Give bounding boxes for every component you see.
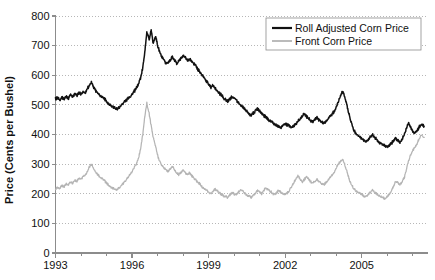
- x-tick-label-1999: 1999: [196, 259, 220, 271]
- y-axis-tick-labels: 8007006005004003002001000: [31, 10, 49, 259]
- y-tick-label-100: 100: [31, 217, 49, 229]
- y-tick-label-300: 300: [31, 158, 49, 170]
- x-tick-label-1993: 1993: [43, 259, 67, 271]
- legend-label-roll-adjusted: Roll Adjusted Corn Price: [295, 22, 409, 34]
- y-tick-label-200: 200: [31, 188, 49, 200]
- y-tick-label-700: 700: [31, 39, 49, 51]
- x-tick-label-1996: 1996: [120, 259, 144, 271]
- x-tick-label-2002: 2002: [273, 259, 297, 271]
- corn-price-chart: 8007006005004003002001000 19931996199920…: [0, 0, 435, 280]
- y-tick-label-500: 500: [31, 99, 49, 111]
- y-tick-label-400: 400: [31, 128, 49, 140]
- y-tick-label-0: 0: [43, 247, 49, 259]
- y-tick-label-800: 800: [31, 10, 49, 22]
- chart-legend: Roll Adjusted Corn Price Front Corn Pric…: [266, 18, 421, 50]
- x-tick-label-2005: 2005: [349, 259, 373, 271]
- chart-canvas: 8007006005004003002001000 19931996199920…: [0, 0, 435, 280]
- legend-label-front: Front Corn Price: [295, 35, 372, 47]
- y-tick-label-600: 600: [31, 69, 49, 81]
- y-axis-title: Price (Cents per Bushel): [3, 76, 15, 204]
